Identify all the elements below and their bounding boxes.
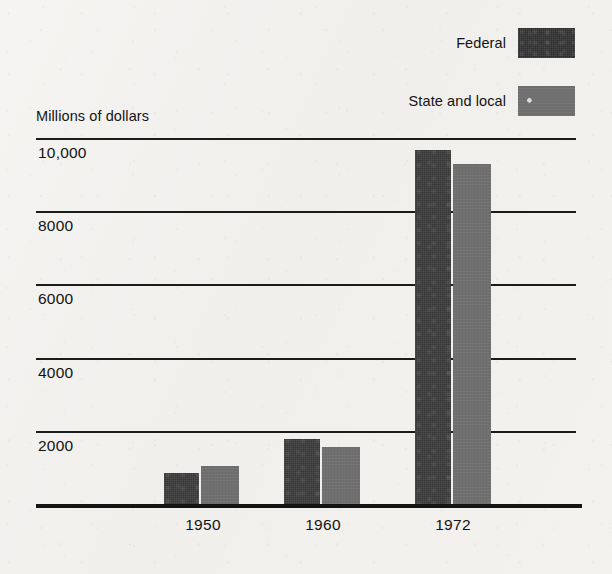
y-tick-label-10000: 10,000 bbox=[38, 144, 87, 162]
gridline-10000 bbox=[36, 138, 576, 140]
y-axis-title: Millions of dollars bbox=[36, 108, 149, 124]
y-tick-label-2000: 2000 bbox=[38, 437, 73, 455]
x-tick-label-1960: 1960 bbox=[305, 516, 341, 534]
x-tick-label-1972: 1972 bbox=[435, 516, 471, 534]
legend-item-state-and-local: State and local bbox=[409, 86, 575, 116]
x-axis-line bbox=[36, 504, 582, 508]
gridline-8000 bbox=[36, 211, 576, 213]
bar-federal-1960 bbox=[284, 439, 320, 504]
bar-state-and-local-1972 bbox=[453, 164, 491, 504]
plot-area: 10,000 8000 6000 4000 2000 bbox=[36, 136, 576, 508]
gridline-2000 bbox=[36, 431, 576, 433]
legend-label-federal: Federal bbox=[456, 35, 506, 51]
bar-chart: Federal State and local Millions of doll… bbox=[0, 0, 612, 574]
bar-state-and-local-1960 bbox=[322, 447, 360, 504]
gridline-4000 bbox=[36, 358, 576, 360]
bar-state-and-local-1950 bbox=[201, 466, 239, 504]
gray-swatch-icon bbox=[518, 86, 575, 116]
bar-federal-1950 bbox=[164, 473, 199, 504]
y-tick-label-6000: 6000 bbox=[38, 290, 73, 308]
y-tick-label-4000: 4000 bbox=[38, 364, 73, 382]
legend-item-federal: Federal bbox=[456, 28, 575, 58]
dark-swatch-icon bbox=[518, 28, 575, 58]
x-tick-label-1950: 1950 bbox=[185, 516, 221, 534]
gridline-6000 bbox=[36, 284, 576, 286]
y-tick-label-8000: 8000 bbox=[38, 217, 73, 235]
bar-federal-1972 bbox=[415, 150, 451, 504]
legend-label-state-and-local: State and local bbox=[409, 93, 506, 109]
